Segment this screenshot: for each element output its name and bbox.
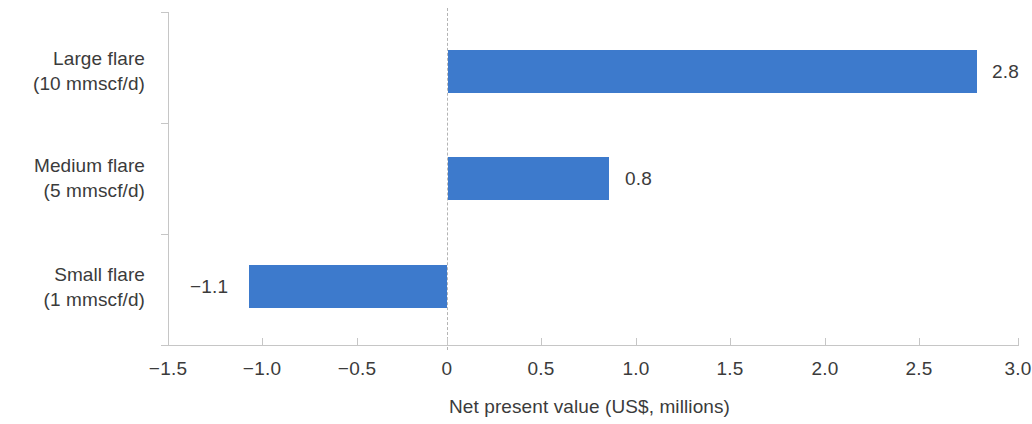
bar-value-label-small-flare: −1.1 [190,276,228,298]
x-axis-tick-label: −1.5 [149,358,187,380]
y-axis-tick [161,123,168,124]
x-axis-title: Net present value (US$, millions) [0,396,1029,418]
category-label-line2: (1 mmscf/d) [44,287,145,312]
x-axis-title-text: Net present value (US$, millions) [299,396,730,417]
x-axis-tick-label: 1.5 [716,358,743,380]
x-axis-tick [730,338,731,346]
category-label-line2: (10 mmscf/d) [33,71,145,96]
x-axis-tick [262,338,263,346]
y-axis-tick [161,345,168,346]
category-label-small-flare: Small flare (1 mmscf/d) [44,262,145,312]
category-label-line1: Large flare [53,48,145,69]
x-axis-tick [447,338,448,346]
category-label-medium-flare: Medium flare (5 mmscf/d) [34,153,145,203]
x-axis-tick-label: −0.5 [338,358,376,380]
category-label-line2: (5 mmscf/d) [34,178,145,203]
x-axis-tick-label: 3.0 [1004,358,1031,380]
bar-value-label-medium-flare: 0.8 [625,168,652,190]
category-label-line1: Small flare [54,264,145,285]
bar-large-flare[interactable] [448,50,977,93]
category-label-large-flare: Large flare (10 mmscf/d) [33,46,145,96]
x-axis-tick-label: 2.0 [811,358,838,380]
category-label-line1: Medium flare [34,155,145,176]
x-axis-tick-label: −1.0 [243,358,281,380]
bar-value-label-large-flare: 2.8 [992,61,1019,83]
x-axis-tick [636,338,637,346]
x-axis-tick-label: 0 [442,358,453,380]
x-axis-tick-label: 0.5 [527,358,554,380]
x-axis-tick [825,338,826,346]
y-axis-tick [161,234,168,235]
x-axis-tick-label: 2.5 [905,358,932,380]
y-axis-spine [168,12,169,346]
x-axis-tick [919,338,920,346]
x-axis-spine [168,345,1019,346]
bar-small-flare[interactable] [249,265,447,308]
y-axis-tick [161,12,168,13]
x-axis-tick [357,338,358,346]
x-axis-tick-label: 1.0 [622,358,649,380]
x-axis-tick [1018,338,1019,346]
x-axis-tick [541,338,542,346]
x-axis-tick [168,338,169,346]
bar-medium-flare[interactable] [448,157,609,200]
